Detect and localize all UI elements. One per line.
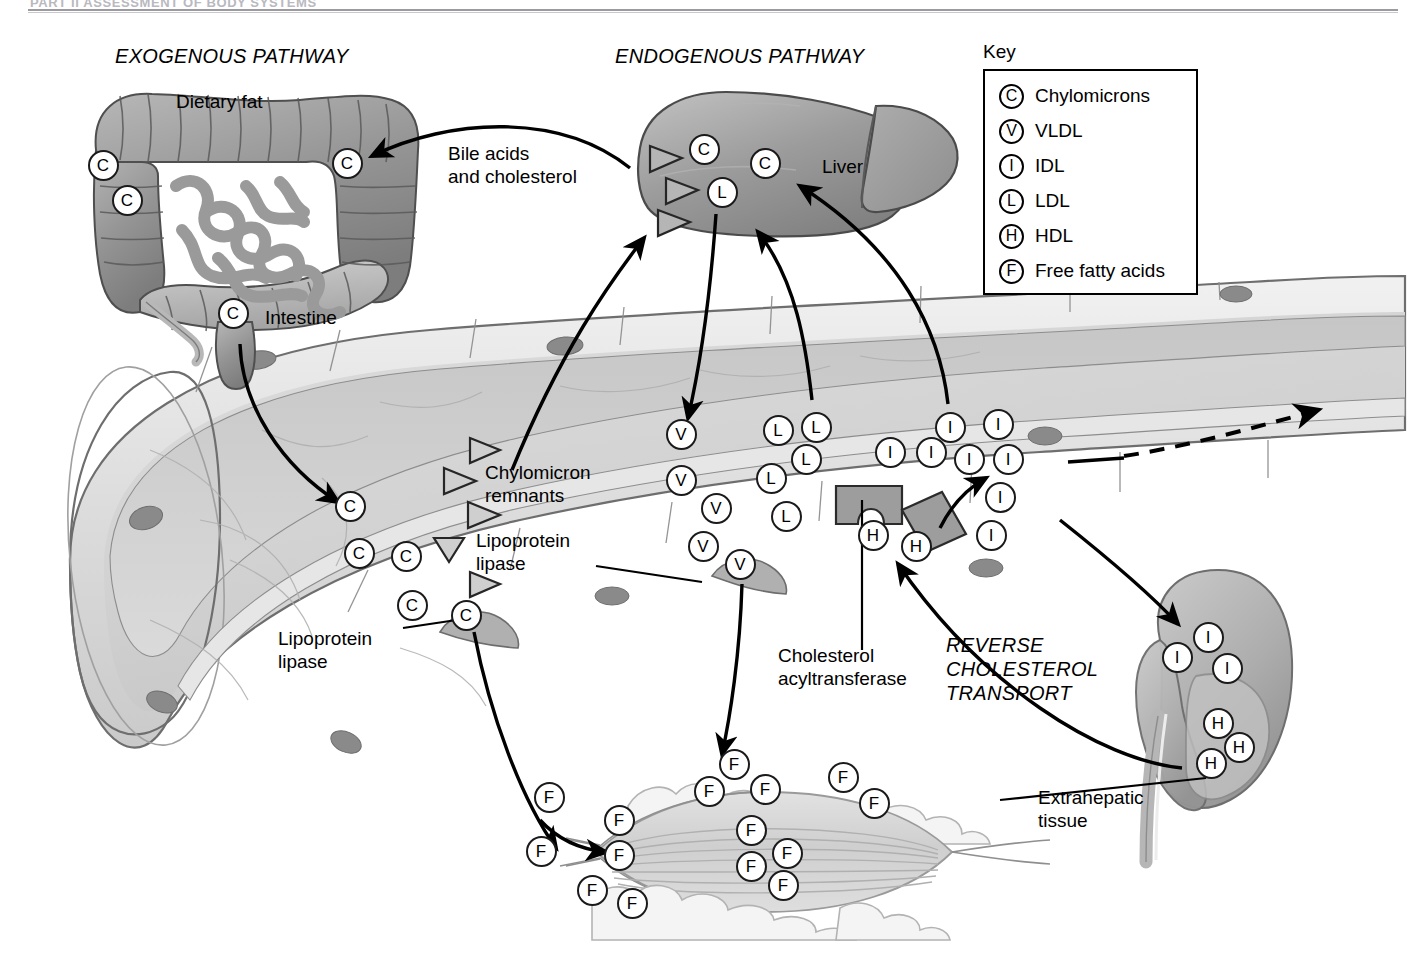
particle-free-fatty-acid: F	[768, 870, 799, 901]
arrow-chylomicron-to-muscle	[474, 632, 556, 848]
particle-vldl: V	[688, 531, 719, 562]
particle-chylomicron: C	[397, 590, 428, 621]
particle-vldl: V	[701, 493, 732, 524]
particle-hdl: H	[858, 520, 889, 551]
key-label-free-fatty-acids: Free fatty acids	[1035, 260, 1165, 282]
particle-chylomicron: C	[332, 148, 363, 179]
particle-free-fatty-acid: F	[604, 805, 635, 836]
key-item-hdl: H HDL	[999, 219, 1073, 253]
particle-ldl: L	[801, 412, 832, 443]
particle-ldl: L	[771, 501, 802, 532]
particle-chylomicron: C	[335, 491, 366, 522]
particle-free-fatty-acid: F	[604, 840, 635, 871]
key-label-hdl: HDL	[1035, 225, 1073, 247]
particle-idl: I	[916, 437, 947, 468]
label-bile-acids-cholesterol: Bile acids and cholesterol	[448, 142, 577, 188]
key-symbol-f: F	[999, 259, 1024, 284]
particle-free-fatty-acid: F	[750, 774, 781, 805]
particle-free-fatty-acid: F	[736, 851, 767, 882]
particle-chylomicron: C	[344, 538, 375, 569]
particle-free-fatty-acid: F	[577, 875, 608, 906]
key-label-chylomicrons: Chylomicrons	[1035, 85, 1150, 107]
particle-free-fatty-acid: F	[828, 762, 859, 793]
key-symbol-l: L	[999, 189, 1024, 214]
label-intestine: Intestine	[265, 306, 337, 329]
particle-idl: I	[983, 409, 1014, 440]
title-reverse-cholesterol-transport: REVERSE CHOLESTEROL TRANSPORT	[946, 633, 1098, 705]
key-legend-box: C Chylomicrons V VLDL I IDL L LDL H HDL …	[983, 69, 1198, 295]
particle-free-fatty-acid: F	[719, 749, 750, 780]
liver-organ	[638, 92, 957, 236]
particle-ldl: L	[763, 415, 794, 446]
particle-chylomicron: C	[112, 185, 143, 216]
particle-free-fatty-acid: F	[772, 838, 803, 869]
key-label-ldl: LDL	[1035, 190, 1070, 212]
key-item-chylomicrons: C Chylomicrons	[999, 79, 1150, 113]
key-symbol-h: H	[999, 224, 1024, 249]
particle-free-fatty-acid: F	[617, 888, 648, 919]
key-heading: Key	[983, 40, 1016, 63]
particle-vldl: V	[725, 549, 756, 580]
title-exogenous-pathway: EXOGENOUS PATHWAY	[115, 45, 349, 68]
particle-idl: I	[875, 437, 906, 468]
particle-free-fatty-acid: F	[736, 815, 767, 846]
particle-hdl: H	[901, 531, 932, 562]
label-lipoprotein-lipase-left: Lipoprotein lipase	[278, 627, 372, 673]
particle-chylomicron: C	[391, 541, 422, 572]
particle-hdl: H	[1224, 732, 1255, 763]
particle-free-fatty-acid: F	[526, 836, 557, 867]
particle-chylomicron: C	[451, 600, 482, 631]
particle-idl: I	[976, 520, 1007, 551]
label-dietary-fat: Dietary fat	[176, 90, 263, 113]
particle-hdl: H	[1203, 708, 1234, 739]
vessel-outflow-stub	[1068, 458, 1124, 462]
particle-vldl: V	[666, 465, 697, 496]
particle-idl: I	[935, 412, 966, 443]
key-item-idl: I IDL	[999, 149, 1065, 183]
particle-idl: I	[1162, 642, 1193, 673]
particle-idl: I	[1212, 653, 1243, 684]
key-symbol-v: V	[999, 119, 1024, 144]
particle-idl: I	[993, 444, 1024, 475]
key-label-vldl: VLDL	[1035, 120, 1083, 142]
particle-ldl: L	[756, 463, 787, 494]
key-item-vldl: V VLDL	[999, 114, 1083, 148]
particle-chylomicron: C	[88, 150, 119, 181]
particle-ldl: L	[791, 444, 822, 475]
key-item-ldl: L LDL	[999, 184, 1070, 218]
particle-chylomicron: C	[750, 148, 781, 179]
particle-chylomicron: C	[218, 298, 249, 329]
cholesterol-acyltransferase-shape	[836, 486, 902, 524]
label-cholesterol-acyltransferase: Cholesterol acyltransferase	[778, 644, 907, 690]
particle-chylomicron: C	[689, 134, 720, 165]
particle-free-fatty-acid: F	[534, 782, 565, 813]
label-chylomicron-remnants: Chylomicron remnants	[485, 461, 591, 507]
particle-idl: I	[985, 482, 1016, 513]
particle-idl: I	[1193, 622, 1224, 653]
key-label-idl: IDL	[1035, 155, 1065, 177]
particle-free-fatty-acid: F	[859, 788, 890, 819]
arrow-vldl-to-muscle	[722, 584, 742, 754]
particle-hdl: H	[1196, 748, 1227, 779]
label-lipoprotein-lipase-right: Lipoprotein lipase	[476, 529, 570, 575]
key-item-free-fatty-acids: F Free fatty acids	[999, 254, 1165, 288]
label-liver: Liver	[822, 155, 863, 178]
particle-ldl: L	[707, 177, 738, 208]
particle-vldl: V	[666, 419, 697, 450]
label-extrahepatic-tissue: Extrahepatic tissue	[1038, 786, 1144, 832]
particle-idl: I	[954, 444, 985, 475]
title-endogenous-pathway: ENDOGENOUS PATHWAY	[615, 45, 865, 68]
key-symbol-i: I	[999, 154, 1024, 179]
key-symbol-c: C	[999, 84, 1024, 109]
particle-free-fatty-acid: F	[694, 776, 725, 807]
diagram-canvas: PART II ASSESSMENT OF BODY SYSTEMS	[0, 0, 1410, 968]
